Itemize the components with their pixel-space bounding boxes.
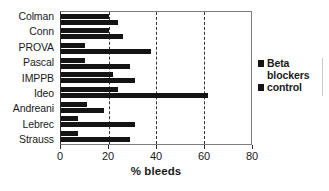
category-label: Strauss xyxy=(0,134,57,145)
bar xyxy=(61,49,151,54)
bar xyxy=(61,20,118,25)
bar xyxy=(61,34,123,39)
bar xyxy=(61,137,130,142)
axis-tick xyxy=(252,145,253,149)
axis-tick-label: 80 xyxy=(246,150,258,162)
bar-chart-figure: Colman Conn PROVA Pascal IMPPB Ideo Andr… xyxy=(0,0,329,191)
axis-tick-label: 20 xyxy=(102,150,114,162)
bar-group xyxy=(61,101,251,114)
bar xyxy=(61,43,85,48)
plot-area xyxy=(60,11,252,145)
bar xyxy=(61,78,135,83)
category-label: Lebrec xyxy=(0,119,57,130)
bar xyxy=(61,102,87,107)
category-label: IMPPB xyxy=(0,73,57,84)
legend: Beta blockers control xyxy=(258,58,327,95)
axis-tick-label: 0 xyxy=(57,150,63,162)
bar-group xyxy=(61,115,251,128)
bar-group xyxy=(61,27,251,40)
legend-label: Beta blockers xyxy=(267,58,327,81)
bar xyxy=(61,93,208,98)
legend-item-beta-blockers: Beta blockers xyxy=(258,58,327,81)
category-label: Andreani xyxy=(0,103,57,114)
bar-group xyxy=(61,130,251,143)
axis-tick-label: 60 xyxy=(198,150,210,162)
bar-group xyxy=(61,71,251,84)
value-axis: 020406080 xyxy=(60,145,252,167)
bar xyxy=(61,64,130,69)
axis-tick xyxy=(108,145,109,149)
bar-group xyxy=(61,13,251,26)
bar xyxy=(61,72,113,77)
bar xyxy=(61,122,135,127)
bar xyxy=(61,58,85,63)
legend-swatch-icon xyxy=(258,84,264,91)
legend-label: control xyxy=(267,82,302,94)
legend-divider xyxy=(322,58,323,96)
category-label: Ideo xyxy=(0,88,57,99)
axis-tick xyxy=(60,145,61,149)
bar xyxy=(61,116,78,121)
category-label: Pascal xyxy=(0,57,57,68)
category-label: Conn xyxy=(0,26,57,37)
axis-tick xyxy=(156,145,157,149)
x-axis-title: % bleeds xyxy=(60,165,252,177)
category-label: PROVA xyxy=(0,42,57,53)
bar xyxy=(61,108,104,113)
category-label: Colman xyxy=(0,11,57,22)
category-axis-labels: Colman Conn PROVA Pascal IMPPB Ideo Andr… xyxy=(0,11,57,145)
bar-group xyxy=(61,57,251,70)
legend-swatch-icon xyxy=(258,60,264,67)
axis-tick-label: 40 xyxy=(150,150,162,162)
bar xyxy=(61,14,109,19)
bar xyxy=(61,28,109,33)
bar-group xyxy=(61,42,251,55)
bar-groups xyxy=(61,12,251,144)
legend-item-control: control xyxy=(258,82,327,94)
bar xyxy=(61,131,78,136)
bar xyxy=(61,87,118,92)
bar-group xyxy=(61,86,251,99)
axis-tick xyxy=(204,145,205,149)
